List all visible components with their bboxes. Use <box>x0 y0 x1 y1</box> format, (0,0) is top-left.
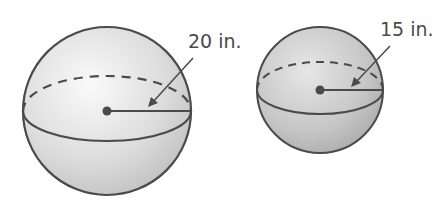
large-sphere <box>23 27 193 195</box>
center-dot <box>316 86 325 95</box>
small-sphere <box>257 27 390 153</box>
large-radius-label: 20 in. <box>188 30 242 52</box>
small-radius-label: 15 in. <box>380 18 434 40</box>
center-dot <box>103 107 112 116</box>
